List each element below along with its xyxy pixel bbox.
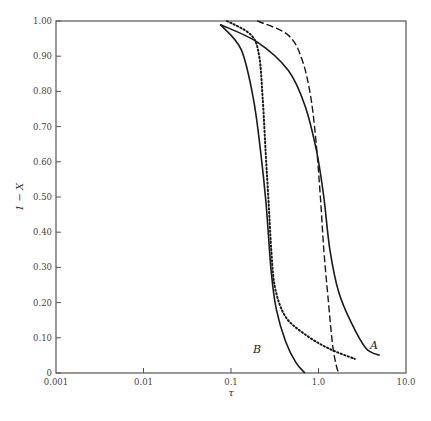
curve-label-a: A (369, 339, 378, 352)
y-tick-label: 1.00 (33, 16, 52, 26)
curve-dashed (257, 21, 338, 373)
y-tick-label: 0.60 (33, 157, 52, 167)
curve-dotted (227, 21, 355, 359)
x-tick-label: 10.0 (397, 377, 416, 387)
y-tick-label: 0.70 (33, 122, 52, 132)
curve-solid (220, 25, 380, 356)
x-tick-label: 0.01 (134, 377, 153, 387)
x-axis-title: τ (228, 387, 234, 398)
x-tick-label: 1.0 (312, 377, 326, 387)
y-tick-label: 0.40 (33, 227, 52, 237)
x-tick-label: 0.001 (44, 377, 68, 387)
y-tick-label: 0.10 (33, 333, 52, 343)
y-axis: 00.100.200.300.400.500.600.700.800.901.0… (33, 16, 61, 378)
y-axis-title: 1 − X (14, 182, 25, 211)
x-tick-label: 0.1 (224, 377, 238, 387)
y-tick-label: 0.50 (33, 192, 52, 202)
curve-label-b: B (252, 343, 261, 356)
x-axis: 0.0010.010.11.010.0 (44, 368, 416, 387)
chart: 00.100.200.300.400.500.600.700.800.901.0… (0, 0, 431, 421)
plot-curves (220, 21, 380, 373)
y-tick-label: 0.80 (33, 86, 52, 96)
y-tick-label: 0.20 (33, 298, 52, 308)
y-tick-label: 0.30 (33, 262, 52, 272)
plot-frame (56, 21, 406, 373)
y-tick-label: 0.90 (33, 51, 52, 61)
